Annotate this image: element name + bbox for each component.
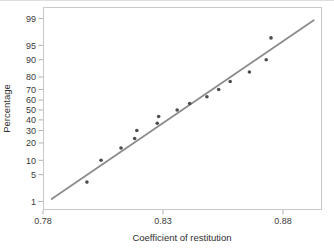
x-axis: 0.780.830.88 [34,210,292,226]
y-axis-label: Percentage [1,84,12,133]
y-tick-label: 1 [31,197,36,207]
chart-canvas: 999590807060504030201051 0.780.830.88 Pe… [0,0,334,249]
y-tick-label: 80 [26,72,36,82]
data-point [135,129,139,133]
y-tick-label: 90 [26,55,36,65]
y-tick-label: 95 [26,41,36,51]
data-point [188,102,192,106]
y-tick-label: 40 [26,115,36,125]
data-point [119,146,123,150]
data-point [157,115,161,119]
x-axis-label: Coefficient of restitution [132,232,231,243]
data-point [155,121,159,125]
data-points [85,36,273,184]
y-tick-label: 60 [26,95,36,105]
y-tick-label: 70 [26,85,36,95]
normal-probability-plot-figure: 999590807060504030201051 0.780.830.88 Pe… [0,0,334,249]
data-point [228,80,232,84]
data-point [99,159,103,163]
data-point [248,70,252,74]
data-point [269,36,273,40]
y-tick-label: 99 [26,14,36,24]
y-tick-label: 30 [26,126,36,136]
data-point [217,88,221,92]
y-tick-label: 20 [26,138,36,148]
plot-area-border [44,8,322,210]
y-tick-label: 10 [26,156,36,166]
data-point [133,137,137,141]
x-tick-label: 0.78 [34,216,52,226]
y-axis: 999590807060504030201051 [26,14,43,207]
data-point [264,58,268,62]
y-tick-label: 5 [31,170,36,180]
fit-line [52,20,314,199]
y-tick-label: 50 [26,105,36,115]
data-point [175,108,179,112]
x-tick-label: 0.83 [154,216,172,226]
x-tick-label: 0.88 [274,216,292,226]
data-point [85,180,89,184]
data-point [205,95,209,99]
